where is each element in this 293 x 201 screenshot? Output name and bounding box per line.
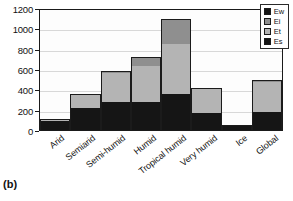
legend-label: Et xyxy=(274,28,281,36)
legend-swatch-icon xyxy=(264,18,271,25)
bar-segment xyxy=(131,57,161,66)
bar-column xyxy=(131,10,161,130)
figure-panel-b: 020040060080010001200 AridSemiaridSemi-h… xyxy=(0,0,293,201)
bar-segment xyxy=(191,89,221,112)
bar-column xyxy=(222,10,252,130)
bar-segment xyxy=(131,66,161,102)
bar-segment xyxy=(70,95,100,107)
bar-segment xyxy=(131,102,161,130)
legend-item: Ei xyxy=(264,17,284,26)
bar-series-group xyxy=(40,10,282,130)
legend-label: Ew xyxy=(274,8,284,16)
x-tick-label: Humid xyxy=(132,133,158,157)
y-axis: 020040060080010001200 xyxy=(0,9,39,131)
y-tick-label: 200 xyxy=(18,105,33,116)
legend-item: Et xyxy=(264,27,284,36)
legend-label: Ei xyxy=(274,18,280,26)
legend-item: Ew xyxy=(264,7,284,16)
bar-segment xyxy=(161,19,191,43)
legend-label: Es xyxy=(274,38,283,46)
x-axis-labels: AridSemiaridSemi-humidHumidTropical humi… xyxy=(39,131,283,191)
bar-column xyxy=(101,10,131,130)
y-tick-label: 800 xyxy=(18,44,33,55)
bar-segment xyxy=(161,94,191,130)
bar-segment xyxy=(40,121,70,130)
x-tick-label: Ice xyxy=(234,133,249,148)
bar-segment xyxy=(222,125,252,130)
bar-column xyxy=(191,10,221,130)
bar-column xyxy=(70,10,100,130)
x-tick-label: Arid xyxy=(48,133,66,150)
y-tick-label: 0 xyxy=(28,126,33,137)
x-tick-label: Global xyxy=(254,133,280,157)
bar-segment xyxy=(70,108,100,130)
chart-legend: EwEiEtEs xyxy=(260,4,289,49)
bar-segment xyxy=(101,102,131,130)
legend-swatch-icon xyxy=(264,28,271,35)
plot-area xyxy=(39,9,283,131)
y-tick-label: 400 xyxy=(18,85,33,96)
y-tick-label: 600 xyxy=(18,65,33,76)
bar-segment xyxy=(191,113,221,130)
bar-segment xyxy=(101,73,131,101)
bar-segment xyxy=(161,44,191,94)
panel-label: (b) xyxy=(3,178,17,190)
y-tick-label: 1000 xyxy=(13,24,33,35)
legend-swatch-icon xyxy=(264,38,271,45)
bar-segment xyxy=(252,112,282,130)
bar-column xyxy=(161,10,191,130)
legend-item: Es xyxy=(264,37,284,46)
legend-swatch-icon xyxy=(264,8,271,15)
bar-column xyxy=(40,10,70,130)
bar-segment xyxy=(252,82,282,111)
y-tick-label: 1200 xyxy=(13,4,33,15)
